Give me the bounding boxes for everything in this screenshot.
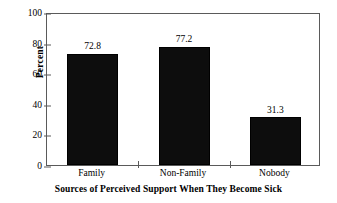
y-tick-label: 60 [33, 70, 43, 80]
y-tick-label: 40 [33, 101, 43, 111]
bar-chart: Percent 020406080100 72.877.231.3 Family… [0, 0, 337, 203]
plot-area: 020406080100 72.877.231.3 [46, 13, 320, 166]
bar-value-label: 77.2 [176, 35, 193, 45]
y-tick-mark [44, 167, 51, 168]
bar: 72.8 [67, 54, 118, 165]
x-category-label: Non-Family [160, 169, 206, 179]
x-category-label: Family [78, 169, 105, 179]
bar-value-label: 31.3 [267, 106, 284, 116]
x-category-label: Nobody [259, 169, 290, 179]
y-tick-label: 0 [37, 162, 42, 172]
bar: 77.2 [159, 47, 210, 165]
bar: 31.3 [250, 117, 301, 165]
bars-layer: 72.877.231.3 [47, 14, 319, 165]
y-tick-label: 100 [28, 9, 42, 19]
y-tick-label: 80 [33, 40, 43, 50]
x-axis-title: Sources of Perceived Support When They B… [0, 185, 337, 195]
y-tick-label: 20 [33, 132, 43, 142]
bar-value-label: 72.8 [84, 42, 101, 52]
